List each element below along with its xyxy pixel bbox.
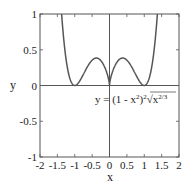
x-tick-label: -1	[70, 159, 79, 171]
x-tick-label: -1.5	[49, 159, 67, 171]
y-tick-label: 0.5	[23, 44, 37, 56]
x-tick-label: 2	[176, 159, 182, 171]
x-tick-label: 0.5	[120, 159, 134, 171]
y-tick-labels: -1-0.500.51	[20, 8, 38, 163]
y-tick-label: -0.5	[20, 115, 38, 127]
y-tick-label: 1	[32, 8, 38, 20]
function-annotation: y = (1 - x2)2√x2/3	[95, 92, 176, 106]
function-plot: -2-1.5-1-0.500.511.52 -1-0.500.51 x y y …	[0, 0, 190, 188]
y-tick-label: 0	[32, 80, 38, 92]
x-axis-label: x	[107, 170, 113, 184]
svg-text:y = (1 - x2)2√x2/3: y = (1 - x2)2√x2/3	[95, 93, 168, 106]
x-tick-label: -0.5	[83, 159, 101, 171]
y-tick-label: -1	[28, 151, 37, 163]
x-tick-label: 1	[142, 159, 148, 171]
x-tick-label: 1.5	[155, 159, 169, 171]
y-axis-label: y	[10, 78, 16, 92]
